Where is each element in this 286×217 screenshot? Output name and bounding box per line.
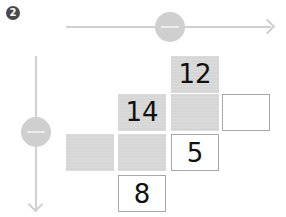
vertical-minus-knob-icon bbox=[21, 117, 51, 147]
horizontal-minus-knob-icon bbox=[155, 12, 185, 42]
arrow-right-icon bbox=[260, 19, 276, 35]
grid-cell-r2c2: 14 bbox=[118, 94, 166, 131]
grid-cell-r4c2: 8 bbox=[118, 175, 166, 212]
problem-number-badge: 2 bbox=[6, 6, 20, 20]
grid-cell-r3c1 bbox=[66, 134, 114, 171]
grid-cell-r1c3: 12 bbox=[171, 56, 219, 93]
grid-cell-r3c2 bbox=[118, 134, 166, 171]
grid-cell-r2c4[interactable] bbox=[222, 94, 270, 131]
arrow-down-icon bbox=[28, 197, 44, 213]
grid-cell-r2c3 bbox=[171, 94, 219, 131]
grid-cell-r3c3: 5 bbox=[171, 134, 219, 171]
